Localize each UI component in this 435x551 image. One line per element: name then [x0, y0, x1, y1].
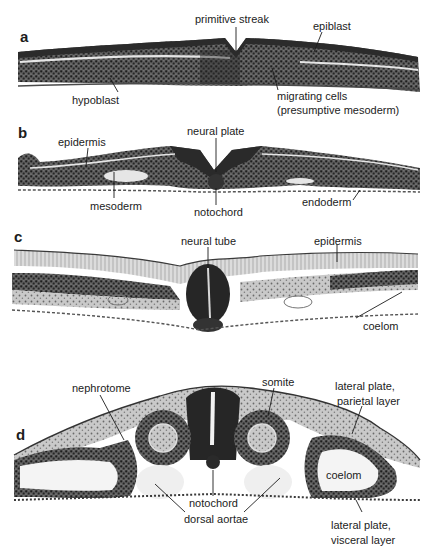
label-nephrotome: nephrotome — [72, 382, 131, 394]
label-lateral-plate-parietal: lateral plate, — [335, 380, 395, 392]
label-presumptive-mesoderm: (presumptive mesoderm) — [277, 104, 399, 116]
label-somite: somite — [262, 376, 294, 388]
label-epidermis-b: epidermis — [58, 136, 106, 148]
label-endoderm: endoderm — [302, 196, 352, 208]
panel-c-section — [12, 244, 418, 332]
label-primitive-streak: primitive streak — [195, 13, 269, 25]
panel-label-a: a — [20, 28, 28, 45]
label-coelom-d: coelom — [326, 469, 361, 481]
embryo-cross-section-figure: a b c d primitive streak epiblast hypobl… — [0, 0, 435, 551]
label-visceral-layer: visceral layer — [331, 534, 395, 546]
panel-b-section — [18, 138, 420, 205]
label-notochord-b: notochord — [194, 206, 243, 218]
label-coelom-c: coelom — [363, 320, 398, 332]
label-notochord-d: notochord — [189, 497, 238, 509]
label-mesoderm: mesoderm — [90, 200, 142, 212]
label-migrating-cells: migrating cells — [277, 90, 347, 102]
label-parietal-layer: parietal layer — [337, 395, 400, 407]
label-neural-plate: neural plate — [187, 125, 245, 137]
panel-label-d: d — [16, 426, 25, 443]
panel-label-c: c — [14, 228, 22, 245]
label-lateral-plate-visceral: lateral plate, — [331, 519, 391, 531]
label-neural-tube: neural tube — [181, 235, 236, 247]
label-dorsal-aortae: dorsal aortae — [184, 513, 248, 525]
panel-a-section — [18, 27, 420, 92]
label-epiblast: epiblast — [313, 20, 351, 32]
panel-label-b: b — [18, 124, 27, 141]
label-epidermis-c: epidermis — [314, 235, 362, 247]
micrograph-layer — [0, 0, 435, 551]
label-hypoblast: hypoblast — [72, 94, 119, 106]
